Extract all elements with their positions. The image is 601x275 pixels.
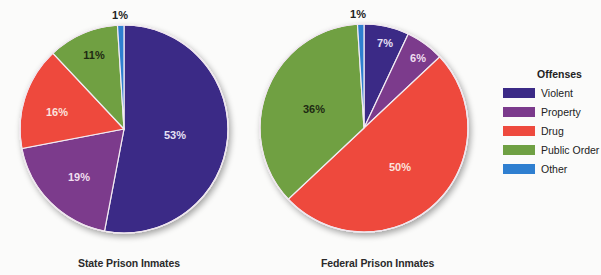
legend-swatch-other [503, 164, 535, 174]
slice-label-public-order: 36% [303, 103, 325, 115]
federal-pie-chart [260, 24, 468, 232]
legend-label: Drug [541, 125, 564, 137]
legend-item-property: Property [503, 102, 599, 121]
legend-label: Property [541, 106, 581, 118]
slice-label-other: 1% [112, 9, 128, 21]
legend-item-drug: Drug [503, 121, 599, 140]
legend-swatch-drug [503, 126, 535, 136]
state-chart-title: State Prison Inmates [78, 257, 180, 269]
legend-swatch-property [503, 107, 535, 117]
legend-item-violent: Violent [503, 83, 599, 102]
state-pie-chart [20, 25, 228, 233]
legend-label: Other [541, 163, 567, 175]
legend-label: Violent [541, 87, 573, 99]
legend-label: Public Order [541, 144, 599, 156]
legend: Offenses Violent Property Drug Public Or… [503, 68, 599, 178]
legend-item-public-order: Public Order [503, 140, 599, 159]
slice-label-property: 19% [68, 171, 90, 183]
legend-swatch-violent [503, 88, 535, 98]
legend-swatch-public-order [503, 145, 535, 155]
slice-label-public-order: 11% [83, 49, 105, 61]
slice-label-drug: 16% [46, 106, 68, 118]
slice-label-property: 6% [410, 52, 426, 64]
slice-label-drug: 50% [389, 161, 411, 173]
legend-item-other: Other [503, 159, 599, 178]
slice-label-other: 1% [350, 8, 366, 20]
slice-label-violent: 7% [377, 37, 393, 49]
federal-chart-title: Federal Prison Inmates [321, 257, 434, 269]
slice-label-violent: 53% [164, 129, 186, 141]
legend-title: Offenses [537, 68, 599, 80]
